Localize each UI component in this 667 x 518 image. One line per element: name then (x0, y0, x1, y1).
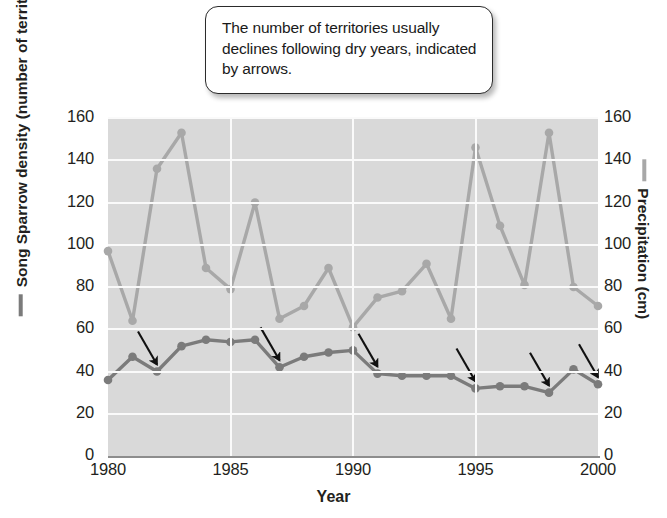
grid-line-vertical (352, 118, 354, 456)
data-point (496, 382, 505, 391)
data-point (202, 264, 211, 273)
data-point (202, 336, 211, 345)
y-tick-label-right-100: 100 (604, 234, 664, 253)
data-point (447, 314, 456, 323)
y-tick-label-left-20: 20 (34, 403, 94, 422)
callout-text: The number of territories usually declin… (222, 18, 478, 80)
y-tick-label-left-60: 60 (34, 318, 94, 337)
y-tick-label-left-100: 100 (34, 234, 94, 253)
grid-line-vertical (230, 118, 232, 456)
x-tick-label-1980: 1980 (73, 460, 143, 479)
x-tick-label-1990: 1990 (318, 460, 388, 479)
sparrow-legend-dash-icon (19, 294, 23, 316)
arrow-1982 (138, 332, 157, 365)
data-point (153, 164, 162, 173)
data-point (422, 259, 431, 268)
y-tick-label-left-40: 40 (34, 361, 94, 380)
y-tick-label-left-80: 80 (34, 276, 94, 295)
y-tick-label-left-120: 120 (34, 192, 94, 211)
y-tick-label-right-140: 140 (604, 149, 664, 168)
data-point (594, 380, 603, 389)
x-axis-title: Year (0, 488, 667, 506)
data-point (300, 352, 309, 361)
data-point (324, 348, 333, 357)
data-point (594, 302, 603, 311)
y-tick-label-right-160: 160 (604, 107, 664, 126)
data-point (300, 302, 309, 311)
data-point (447, 371, 456, 380)
data-point (128, 317, 137, 326)
arrow-1998 (530, 353, 549, 386)
data-point (177, 342, 186, 351)
data-point (422, 371, 431, 380)
data-point (275, 314, 284, 323)
x-tick-label-1985: 1985 (196, 460, 266, 479)
data-point (128, 352, 137, 361)
left-axis-title: Song Sparrow density (number of territor… (13, 86, 32, 316)
data-point (251, 336, 260, 345)
y-tick-label-right-40: 40 (604, 361, 664, 380)
data-point (104, 247, 113, 256)
data-point (104, 376, 113, 385)
data-point (398, 287, 407, 296)
arrow-1995 (457, 348, 476, 381)
data-point (398, 371, 407, 380)
x-tick-label-2000: 2000 (563, 460, 633, 479)
plot-area (108, 118, 598, 456)
arrow-1991 (359, 334, 378, 367)
figure-root: The number of territories usually declin… (0, 0, 667, 518)
data-point (520, 382, 529, 391)
left-axis-title-text: Song Sparrow density (number of territor… (13, 0, 30, 287)
data-point (177, 128, 186, 137)
x-axis-line (108, 456, 600, 458)
y-tick-label-left-140: 140 (34, 149, 94, 168)
y-tick-label-right-80: 80 (604, 276, 664, 295)
data-point (324, 264, 333, 273)
y-tick-label-left-160: 160 (34, 107, 94, 126)
data-point (373, 293, 382, 302)
y-tick-label-right-120: 120 (604, 192, 664, 211)
data-point (545, 388, 554, 397)
y-tick-label-right-20: 20 (604, 403, 664, 422)
data-point (545, 128, 554, 137)
y-tick-label-right-60: 60 (604, 318, 664, 337)
data-point (496, 221, 505, 230)
callout-box: The number of territories usually declin… (205, 6, 493, 94)
grid-line-vertical (475, 118, 477, 456)
x-tick-label-1995: 1995 (441, 460, 511, 479)
